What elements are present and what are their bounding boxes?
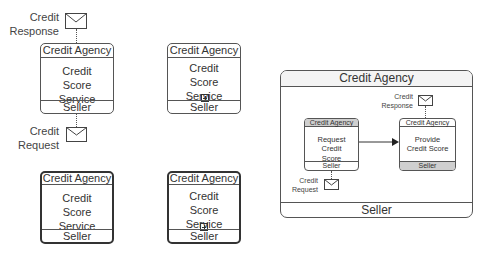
participant-band: Seller <box>400 161 455 170</box>
message-label-line1: Credit <box>285 176 318 185</box>
message-label-credit-request: Credit Request <box>6 124 59 153</box>
call-choreography-task-credit-score-service[interactable]: Credit Agency Credit Score Service Selle… <box>40 171 114 244</box>
envelope-icon <box>66 127 87 142</box>
message-label-line2: Request <box>285 185 318 194</box>
sequence-flow-arrow[interactable] <box>359 137 400 147</box>
choreography-task-provide-credit-score[interactable]: Credit Agency Provide Credit Score Selle… <box>399 118 456 171</box>
task-name: Provide Credit Score <box>400 135 455 154</box>
initiator-band: Credit Agency <box>305 119 358 127</box>
message-association-line <box>331 171 332 179</box>
participant-band: Seller <box>169 229 239 242</box>
initiator-band: Credit Agency <box>169 173 239 185</box>
initiator-band: Credit Agency <box>168 44 240 58</box>
message-label-credit-response: Credit Response <box>6 10 59 39</box>
message-label-credit-response: Credit Response <box>378 92 413 110</box>
message-label-line1: Credit <box>6 10 59 24</box>
envelope-icon <box>324 179 339 190</box>
choreography-task-credit-score-service[interactable]: Credit Agency Credit Score Service Selle… <box>40 43 114 114</box>
task-name: Credit Score Service <box>42 192 112 233</box>
message-label-line2: Response <box>6 24 59 38</box>
message-label-line2: Request <box>6 138 59 152</box>
participant-band: Seller <box>281 202 472 217</box>
envelope-icon <box>65 13 87 29</box>
sub-choreography-credit-score-service[interactable]: Credit Agency Credit Score Service Selle… <box>167 43 241 114</box>
message-label-line1: Credit <box>378 92 413 101</box>
message-association-line <box>76 29 77 43</box>
initiator-band: Credit Agency <box>400 119 455 127</box>
choreography-task-request-credit-score[interactable]: Credit Agency Request Credit Score Selle… <box>304 118 359 171</box>
initiator-band: Credit Agency <box>281 71 472 87</box>
message-association-line <box>425 106 426 118</box>
message-association-line <box>76 114 77 127</box>
participant-band: Seller <box>168 100 240 113</box>
participant-band: Seller <box>41 100 113 113</box>
message-label-line2: Response <box>378 101 413 110</box>
participant-band: Seller <box>42 229 112 242</box>
envelope-icon <box>418 95 433 106</box>
initiator-band: Credit Agency <box>41 44 113 58</box>
participant-band: Seller <box>305 161 358 170</box>
message-label-line1: Credit <box>6 124 59 138</box>
call-sub-choreography-credit-score-service[interactable]: Credit Agency Credit Score Service Selle… <box>167 171 241 244</box>
initiator-band: Credit Agency <box>42 173 112 185</box>
task-name: Request Credit Score <box>305 135 358 163</box>
message-label-credit-request: Credit Request <box>285 176 318 194</box>
